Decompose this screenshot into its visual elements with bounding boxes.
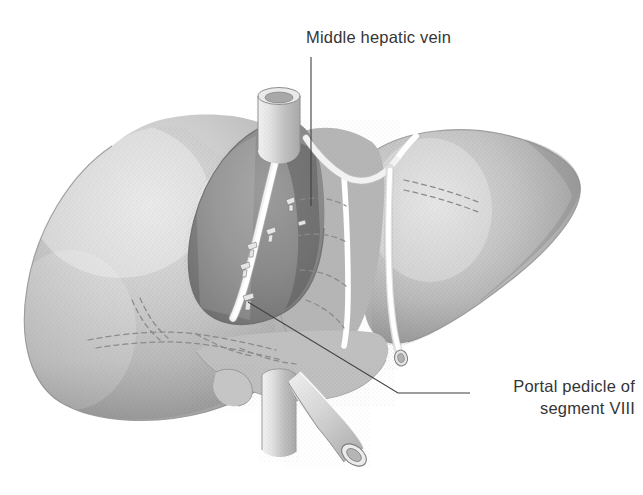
- caudate-bulge: [210, 364, 256, 412]
- liver-illustration-figure: Middle hepatic vein Portal pedicle of se…: [0, 0, 643, 495]
- label-middle-hepatic-vein-line-1: Middle hepatic vein: [306, 26, 451, 48]
- portal-vein-stump: [284, 368, 371, 471]
- label-portal-pedicle-segment-viii: Portal pedicle of segment VIII: [459, 375, 635, 420]
- label-portal-pedicle-line-2: segment VIII: [459, 397, 635, 419]
- liver-anatomy-drawing: [0, 0, 643, 495]
- label-portal-pedicle-line-1: Portal pedicle of: [459, 375, 635, 397]
- inferior-vena-cava-superior-stump: [256, 88, 302, 173]
- label-middle-hepatic-vein: Middle hepatic vein: [306, 26, 451, 48]
